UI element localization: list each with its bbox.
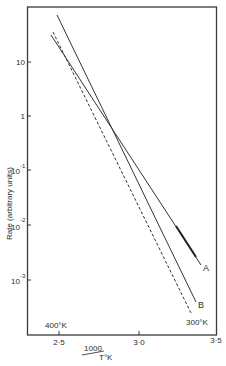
x-tick-3-5: 3·5 bbox=[210, 336, 222, 345]
y-tick-1e-1-exp: -1 bbox=[20, 163, 26, 169]
x-tick-2-5: 2·5 bbox=[53, 338, 65, 347]
x-axis-tick-labels: 2·5 3·0 3·5 bbox=[53, 336, 222, 347]
arrhenius-rate-chart: 10 1 10 -1 10 -2 10 -3 Rate (arbitrary u… bbox=[0, 0, 226, 366]
y-tick-1: 1 bbox=[21, 112, 26, 121]
y-tick-1e-2-exp: -2 bbox=[20, 217, 26, 223]
series-a-label: A bbox=[203, 263, 209, 273]
x-tick-3-0: 3·0 bbox=[133, 338, 145, 347]
y-tick-1e-3-exp: -3 bbox=[20, 273, 26, 279]
series-a-thick-segment bbox=[176, 226, 196, 257]
y-axis-title: Rate (arbitrary units) bbox=[5, 167, 14, 240]
annotation-300k: 300°K bbox=[186, 318, 209, 327]
x-axis-title: 1000 T°K bbox=[82, 344, 113, 362]
series-b-line bbox=[57, 15, 196, 302]
annotation-400k: 400°K bbox=[45, 321, 68, 330]
series-b-label: B bbox=[198, 300, 204, 310]
series-300k-dashed-line bbox=[53, 32, 192, 315]
x-axis-title-denominator: T°K bbox=[99, 353, 113, 362]
y-tick-10: 10 bbox=[16, 58, 25, 67]
